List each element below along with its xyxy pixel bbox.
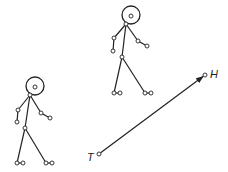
left-elbow-joint [16,108,20,112]
left-leg [114,57,122,93]
head-label: H [210,68,218,80]
tail-label: T [87,151,95,163]
torso [122,24,126,57]
hip-joint [23,126,27,130]
right-toe-joint [50,161,54,165]
right-leg [25,128,46,163]
right-leg [122,57,145,93]
neck-joint [28,93,32,97]
vector-head-point [203,73,207,77]
head-center-point [33,85,37,89]
direction-vector: T H [87,68,218,163]
diagram-canvas: T H [0,0,228,172]
stick-figure-upper [111,6,153,95]
right-upper-arm [126,24,138,41]
left-hand-joint [111,49,115,53]
vector-arrow [101,76,203,152]
neck-joint [124,22,128,26]
hip-joint [120,55,124,59]
right-ankle-joint [44,161,48,165]
left-toe-joint [118,91,122,95]
left-ankle-joint [15,161,19,165]
vector-tail-point [97,152,101,156]
right-upper-arm [30,95,41,113]
left-hand-joint [15,120,19,124]
left-ankle-joint [112,91,116,95]
left-toe-joint [21,161,25,165]
right-hand-joint [48,116,52,120]
left-leg [17,128,25,163]
right-hand-joint [145,44,149,48]
right-ankle-joint [143,91,147,95]
head-center-point [129,14,133,18]
right-elbow-joint [136,39,140,43]
left-elbow-joint [112,36,116,40]
stick-figure-lower [15,77,54,165]
right-toe-joint [149,91,153,95]
right-elbow-joint [39,111,43,115]
